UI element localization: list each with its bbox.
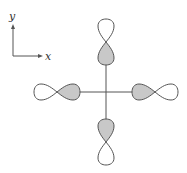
- orbital-diagram: y x: [0, 0, 187, 173]
- orbital-left: [34, 84, 80, 100]
- orbital-top: [98, 19, 114, 65]
- x-arrow-icon: [38, 54, 43, 58]
- bond-lines: [76, 62, 135, 121]
- x-axis-label: x: [45, 50, 52, 63]
- y-axis-label: y: [8, 10, 16, 23]
- orbital-right: [132, 84, 178, 100]
- y-arrow-icon: [11, 24, 15, 29]
- axes-indicator: y x: [8, 10, 52, 63]
- orbital-bottom: [98, 119, 114, 165]
